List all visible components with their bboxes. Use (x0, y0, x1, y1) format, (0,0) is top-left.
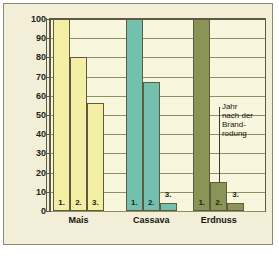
group-label-erdnuss: Erdnuss (193, 216, 244, 225)
y-tick-0 (47, 211, 51, 212)
y-tick-60 (47, 96, 51, 97)
gridline-0 (51, 211, 265, 212)
bar-label-mais-3: 3. (88, 199, 103, 207)
y-tick-80 (47, 57, 51, 58)
y-axis-label-20: 20 (36, 168, 46, 177)
bar-label-mais-1: 1. (54, 199, 69, 207)
bar-erdnuss-2: 2. (210, 182, 227, 211)
bar-group-mais: 1.2.3.Mais (53, 19, 104, 211)
bar-label-mais-2: 2. (71, 199, 86, 207)
y-tick-70 (47, 77, 51, 78)
group-label-mais: Mais (53, 216, 104, 225)
bar-mais-1: 1. (53, 19, 70, 211)
y-tick-50 (47, 115, 51, 116)
y-tick-100 (47, 19, 51, 20)
y-tick-20 (47, 173, 51, 174)
y-tick-40 (47, 134, 51, 135)
y-axis-label-0: 0 (41, 207, 46, 216)
bar-cassava-2: 2. (143, 82, 160, 211)
y-axis-label-10: 10 (36, 187, 46, 196)
y-tick-10 (47, 192, 51, 193)
figure-container: 0102030405060708090100 1.2.3.Mais1.2.3.C… (0, 0, 279, 257)
annotation-jahr-nach-der-brandrodung: Jahr nach der Brand- rodung (222, 103, 253, 139)
y-axis-label-100: 100 (31, 15, 46, 24)
bar-cassava-1: 1. (126, 19, 143, 211)
y-axis-label-90: 90 (36, 34, 46, 43)
bar-cassava-3: 3. (160, 203, 177, 211)
bar-label-erdnuss-3: 3. (228, 191, 243, 199)
bar-mais-3: 3. (87, 103, 104, 211)
bar-label-erdnuss-2: 2. (211, 199, 226, 207)
bar-label-cassava-2: 2. (144, 199, 159, 207)
chart-frame: 0102030405060708090100 1.2.3.Mais1.2.3.C… (14, 12, 270, 234)
y-axis-label-60: 60 (36, 91, 46, 100)
bar-label-cassava-1: 1. (127, 199, 142, 207)
bar-erdnuss-3: 3. (227, 203, 244, 211)
annotation-leader-line (219, 107, 220, 182)
group-label-cassava: Cassava (126, 216, 177, 225)
y-axis-label-40: 40 (36, 130, 46, 139)
bar-erdnuss-1: 1. (193, 19, 210, 211)
y-tick-30 (47, 153, 51, 154)
figure-plate: 0102030405060708090100 1.2.3.Mais1.2.3.C… (3, 3, 273, 245)
y-axis-label-50: 50 (36, 111, 46, 120)
y-axis-label-80: 80 (36, 53, 46, 62)
bar-mais-2: 2. (70, 57, 87, 211)
y-axis-label-30: 30 (36, 149, 46, 158)
bar-label-cassava-3: 3. (161, 191, 176, 199)
y-axis-label-70: 70 (36, 72, 46, 81)
bar-label-erdnuss-1: 1. (194, 199, 209, 207)
bar-group-cassava: 1.2.3.Cassava (126, 19, 177, 211)
y-tick-90 (47, 38, 51, 39)
plot-area: 0102030405060708090100 1.2.3.Mais1.2.3.C… (50, 18, 266, 212)
